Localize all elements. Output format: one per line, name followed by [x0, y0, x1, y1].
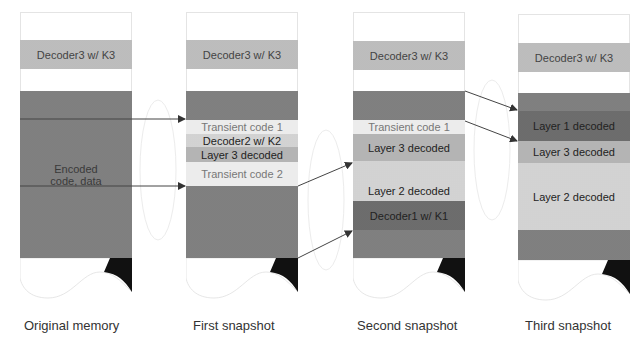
arrows-layer	[0, 0, 642, 350]
arrow-icon	[20, 91, 517, 258]
